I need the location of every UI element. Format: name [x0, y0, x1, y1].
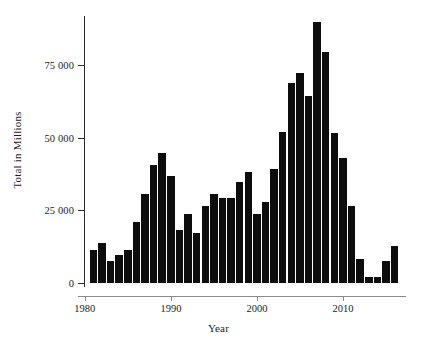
y-tick-label: 50 000	[45, 132, 74, 143]
bar	[331, 133, 339, 283]
x-tick-label: 2010	[332, 303, 353, 314]
y-tick-label: 75 000	[45, 60, 74, 71]
x-axis-line	[78, 296, 406, 297]
plot-area: 025 00050 00075 000 1980199020002010	[0, 0, 437, 346]
bar	[219, 198, 227, 283]
bar	[296, 73, 304, 283]
bar	[167, 176, 175, 283]
bar	[184, 214, 192, 283]
bar	[141, 194, 149, 283]
x-tick-mark	[343, 296, 344, 301]
bar	[115, 255, 123, 283]
bar	[253, 214, 261, 283]
bar	[193, 233, 201, 283]
y-tick-label: 25 000	[45, 205, 74, 216]
y-tick-mark	[78, 283, 84, 284]
x-tick-mark	[85, 296, 86, 301]
bar	[262, 202, 270, 283]
bar	[245, 172, 253, 283]
bar	[382, 261, 390, 283]
bar	[227, 198, 235, 283]
bar	[365, 277, 373, 283]
bar	[124, 250, 132, 283]
bar	[90, 250, 98, 283]
y-axis-line	[84, 16, 85, 287]
bar	[202, 206, 210, 283]
bar	[176, 230, 184, 283]
x-tick-label: 2000	[246, 303, 267, 314]
y-axis-title: Total in Millions	[8, 40, 26, 260]
bar	[236, 182, 244, 283]
bar	[150, 165, 158, 283]
bar	[133, 222, 141, 283]
chart-figure: 025 00050 00075 000 1980199020002010 Tot…	[0, 0, 437, 346]
bar	[339, 158, 347, 283]
bar	[348, 206, 356, 283]
bar	[279, 132, 287, 283]
bar	[374, 277, 382, 283]
x-axis-title: Year	[0, 322, 437, 334]
bar	[322, 52, 330, 283]
y-tick-mark	[78, 210, 84, 211]
y-tick-mark	[78, 65, 84, 66]
bar	[158, 153, 166, 283]
bar	[210, 194, 218, 283]
y-axis-title-text: Total in Millions	[11, 111, 23, 188]
bar	[305, 96, 313, 283]
x-tick-label: 1980	[74, 303, 95, 314]
bar	[356, 259, 364, 283]
bar	[98, 243, 106, 283]
x-tick-mark	[257, 296, 258, 301]
bar	[270, 169, 278, 283]
y-tick-label: 0	[69, 278, 74, 289]
x-tick-label: 1990	[160, 303, 181, 314]
y-tick-mark	[78, 138, 84, 139]
bar	[391, 246, 399, 283]
bar	[313, 22, 321, 283]
bar	[107, 261, 115, 283]
x-tick-mark	[171, 296, 172, 301]
bar	[288, 83, 296, 283]
bar-series	[0, 0, 437, 346]
